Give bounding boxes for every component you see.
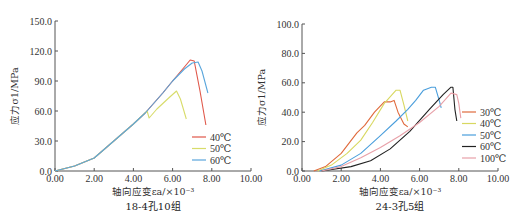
y-axis-label: 应力σ1/MPa: [256, 69, 267, 126]
x-tick-label: 6.00: [411, 173, 429, 184]
chart-caption: 24-3孔5组: [376, 200, 425, 212]
chart-right: 0.002.004.006.008.0010.000.020.040.060.0…: [256, 19, 509, 213]
legend-label: 40℃: [210, 132, 231, 143]
x-tick-label: 10.00: [240, 173, 263, 184]
y-tick-label: 60.0: [282, 77, 300, 88]
y-tick-label: 90.0: [35, 76, 53, 87]
legend-label: 50℃: [480, 130, 501, 141]
series-line: [314, 100, 408, 171]
legend-label: 60℃: [210, 155, 231, 166]
chart-left: 0.002.004.006.008.0010.000.030.060.090.0…: [9, 16, 262, 213]
x-tick-label: 6.00: [164, 173, 182, 184]
legend-label: 50℃: [210, 143, 231, 154]
y-tick-label: 40.0: [282, 107, 300, 118]
legend-label: 30℃: [480, 107, 501, 118]
y-tick-label: 20.0: [282, 136, 300, 147]
legend-label: 60℃: [480, 141, 501, 152]
series-line: [322, 93, 461, 171]
series-line: [320, 87, 442, 171]
x-tick-label: 8.00: [450, 173, 468, 184]
y-tick-label: 150.0: [30, 16, 53, 27]
y-tick-label: 60.0: [35, 106, 53, 117]
y-tick-label: 0.0: [287, 166, 300, 177]
x-tick-label: 2.00: [85, 173, 103, 184]
series-line: [55, 60, 206, 171]
series-line: [55, 62, 208, 171]
x-axis-label: 轴向应变εa/×10⁻³: [112, 186, 195, 197]
y-tick-label: 120.0: [30, 46, 53, 57]
y-tick-label: 100.0: [277, 19, 300, 30]
y-tick-label: 0.0: [40, 166, 53, 177]
y-axis-label: 应力σ1/MPa: [9, 67, 20, 124]
x-tick-label: 4.00: [372, 173, 390, 184]
x-tick-label: 2.00: [332, 173, 350, 184]
series-line: [322, 87, 457, 171]
chart-caption: 18-4孔10组: [125, 200, 180, 212]
y-tick-label: 80.0: [282, 48, 300, 59]
chart-canvas: 0.002.004.006.008.0010.000.030.060.090.0…: [0, 0, 524, 224]
x-axis-label: 轴向应变εa/×10⁻³: [359, 186, 442, 197]
x-tick-label: 10.00: [487, 173, 510, 184]
legend-label: 100℃: [480, 153, 506, 164]
x-tick-label: 8.00: [203, 173, 221, 184]
legend-label: 40℃: [480, 118, 501, 129]
x-tick-label: 4.00: [125, 173, 143, 184]
series-line: [55, 91, 186, 171]
y-tick-label: 30.0: [35, 136, 53, 147]
